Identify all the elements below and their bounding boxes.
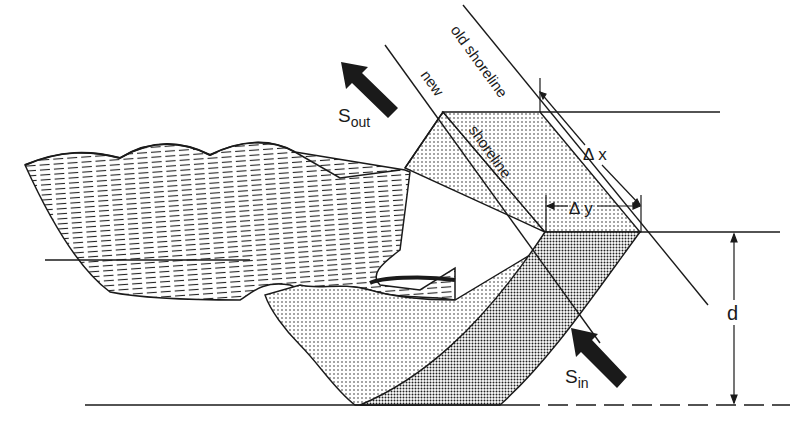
shoreline-diagram: Δ x Δ y d old shoreline new shoreline So… [0,0,799,436]
depth-label: d [727,302,738,324]
delta-x-label: Δ x [583,145,607,164]
old-shoreline-label: old shoreline [448,22,512,101]
new-label: new [418,67,448,99]
s-out-label: Sout [338,105,370,130]
delta-y-label: Δ y [569,199,593,218]
s-in-label: Sin [565,366,589,391]
sea-surface [25,143,455,300]
